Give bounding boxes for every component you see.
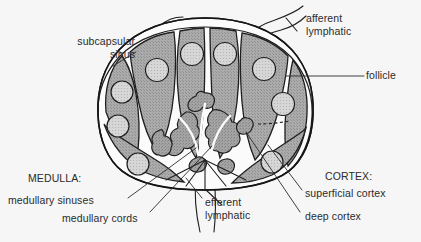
label-efferent-lymphatic: efferent lymphatic — [205, 196, 275, 222]
label-cortex-header: CORTEX: — [325, 170, 405, 183]
follicle — [107, 115, 129, 137]
follicle — [214, 43, 237, 66]
label-afferent-lymphatic-line2: lymphatic — [306, 25, 392, 38]
follicle — [127, 153, 149, 175]
medullary-cord — [218, 159, 235, 174]
lymph-node-figure: subcapsular sinus afferent lymphatic fol… — [0, 0, 421, 242]
label-follicle: follicle — [366, 69, 418, 82]
follicle — [111, 81, 133, 103]
label-efferent-lymphatic-line2: lymphatic — [205, 209, 275, 222]
follicle — [181, 43, 204, 66]
label-afferent-lymphatic: afferent lymphatic — [306, 12, 392, 38]
follicle — [146, 59, 169, 82]
label-medullary-cords: medullary cords — [62, 212, 170, 225]
label-afferent-lymphatic-line1: afferent — [306, 12, 392, 25]
label-superficial-cortex: superficial cortex — [305, 187, 413, 200]
label-subcapsular-sinus: subcapsular sinus — [43, 35, 135, 61]
label-medullary-sinuses: medullary sinuses — [8, 194, 126, 207]
follicle — [272, 93, 295, 116]
label-medulla-header: MEDULLA: — [28, 172, 106, 185]
follicle — [253, 58, 276, 81]
label-deep-cortex: deep cortex — [305, 210, 381, 223]
label-subcapsular-sinus-line2: sinus — [43, 48, 135, 61]
follicle — [261, 151, 283, 173]
label-efferent-lymphatic-line1: efferent — [205, 196, 275, 209]
label-subcapsular-sinus-line1: subcapsular — [43, 35, 135, 48]
